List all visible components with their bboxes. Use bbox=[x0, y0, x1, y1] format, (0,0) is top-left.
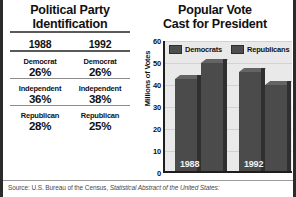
legend-swatch-republicans-icon bbox=[231, 45, 244, 54]
legend-item-republicans: Republicans bbox=[231, 45, 289, 54]
right-panel-title-line1: Popular Vote bbox=[137, 3, 293, 17]
democrat-value-1992: 26% bbox=[70, 66, 130, 78]
democrat-label-1988: Democrat bbox=[10, 57, 70, 66]
republican-value-1988: 28% bbox=[10, 120, 70, 132]
y-tick-50: 50 bbox=[153, 59, 161, 68]
left-panel-title-line1: Political Party bbox=[3, 3, 137, 17]
independent-row-group: Independent Independent 36% 38% bbox=[10, 84, 130, 105]
political-party-identification-panel: Political Party Identification 1988 1992… bbox=[3, 0, 137, 180]
y-axis-tick-labels: 6050403020100 bbox=[145, 30, 161, 178]
bar-group-1992: 1992 bbox=[239, 41, 287, 171]
legend-label-republicans: Republicans bbox=[247, 45, 289, 54]
popular-vote-bar-chart: Millions of Votes 6050403020100 Democrat… bbox=[137, 30, 293, 178]
x-axis-label-1988: 1988 bbox=[180, 159, 199, 169]
independent-label-1988: Independent bbox=[10, 84, 70, 93]
row-divider-2 bbox=[10, 105, 130, 106]
popular-vote-panel: Popular Vote Cast for President Millions… bbox=[137, 0, 293, 180]
right-panel-title-line2: Cast for President bbox=[137, 17, 293, 31]
bar-group-1988: 1988 bbox=[175, 41, 223, 171]
source-title: Statistical Abstract of the United State… bbox=[110, 184, 220, 191]
x-axis-label-1992: 1992 bbox=[244, 159, 263, 169]
bar-1988-republicans bbox=[201, 63, 223, 171]
y-tick-30: 30 bbox=[153, 103, 161, 112]
independent-label-1992: Independent bbox=[70, 84, 130, 93]
legend-item-democrats: Democrats bbox=[169, 45, 222, 54]
y-tick-60: 60 bbox=[153, 37, 161, 46]
legend-label-democrats: Democrats bbox=[185, 45, 222, 54]
democrat-value-1988: 26% bbox=[10, 66, 70, 78]
table-row: Republican Republican bbox=[10, 111, 130, 120]
republican-label-1992: Republican bbox=[70, 111, 130, 120]
bar-side-face bbox=[223, 59, 227, 171]
y-tick-0: 0 bbox=[157, 169, 161, 178]
infographic-page: Political Party Identification 1988 1992… bbox=[0, 0, 296, 197]
table-row-values: 28% 25% bbox=[10, 120, 130, 132]
republican-value-1992: 25% bbox=[70, 120, 130, 132]
party-identification-table: 1988 1992 bbox=[10, 38, 130, 50]
bar-1988-democrats bbox=[175, 79, 197, 171]
table-row: Independent Independent bbox=[10, 84, 130, 93]
plot-area: Democrats Republicans 19881992 bbox=[163, 41, 292, 173]
republican-row-group: Republican Republican 28% 25% bbox=[10, 111, 130, 132]
legend-swatch-democrats-icon bbox=[169, 45, 182, 54]
column-header-1992: 1992 bbox=[70, 38, 130, 50]
independent-value-1992: 38% bbox=[70, 93, 130, 105]
source-label: Source: U.S. Bureau of the Census, bbox=[8, 184, 108, 191]
left-panel-title-line2: Identification bbox=[3, 17, 137, 31]
table-header-rule bbox=[10, 50, 130, 52]
y-tick-10: 10 bbox=[153, 147, 161, 156]
y-tick-20: 20 bbox=[153, 125, 161, 134]
source-divider bbox=[3, 180, 293, 181]
left-panel-title: Political Party Identification bbox=[3, 0, 137, 31]
table-row: Democrat Democrat bbox=[10, 57, 130, 66]
table-row-values: 36% 38% bbox=[10, 93, 130, 105]
source-note: Source: U.S. Bureau of the Census, Stati… bbox=[8, 184, 289, 191]
row-divider-1 bbox=[10, 78, 130, 79]
table-header-row: 1988 1992 bbox=[10, 38, 130, 50]
chart-legend: Democrats Republicans bbox=[169, 43, 290, 56]
bar-1992-republicans bbox=[265, 85, 287, 171]
bar-1992-democrats bbox=[239, 72, 261, 171]
right-panel-title: Popular Vote Cast for President bbox=[137, 0, 293, 31]
democrat-label-1992: Democrat bbox=[70, 57, 130, 66]
y-tick-40: 40 bbox=[153, 81, 161, 90]
bar-side-face bbox=[287, 81, 291, 171]
table-top-rule bbox=[10, 31, 130, 33]
column-header-1988: 1988 bbox=[10, 38, 70, 50]
table-row-values: 26% 26% bbox=[10, 66, 130, 78]
independent-value-1988: 36% bbox=[10, 93, 70, 105]
democrat-row-group: Democrat Democrat 26% 26% bbox=[10, 57, 130, 78]
republican-label-1988: Republican bbox=[10, 111, 70, 120]
